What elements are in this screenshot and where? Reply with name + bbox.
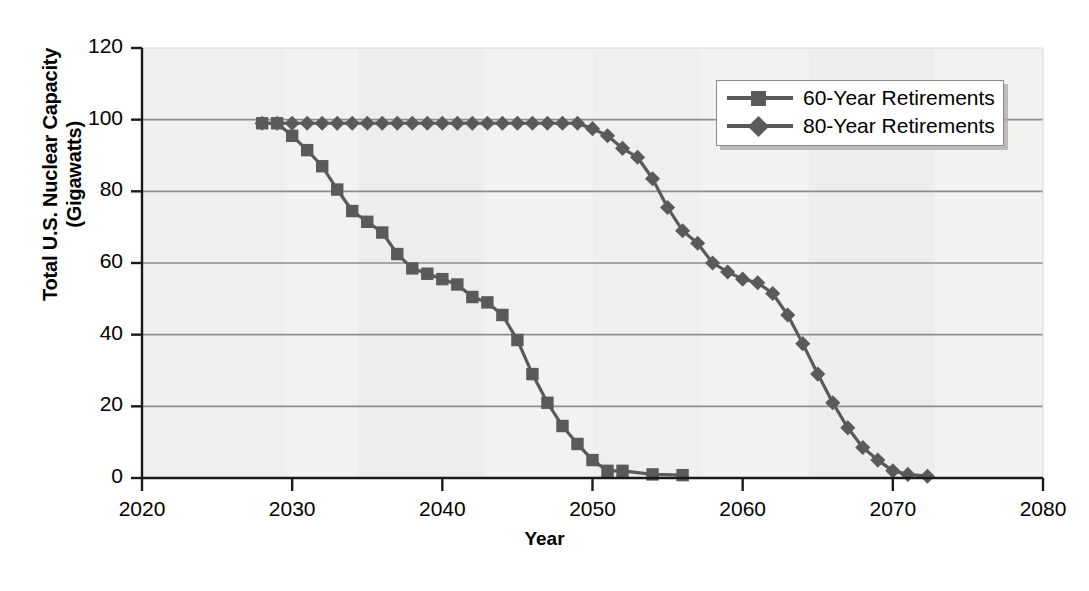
- data-point-marker: [481, 296, 493, 308]
- y-tick-label: 100: [63, 106, 123, 130]
- y-tick-label: 60: [63, 249, 123, 273]
- legend-item-80-year[interactable]: 80-Year Retirements: [727, 113, 995, 139]
- y-tick-label: 40: [63, 321, 123, 345]
- data-point-marker: [436, 273, 448, 285]
- data-point-marker: [571, 438, 583, 450]
- x-tick-label: 2040: [397, 497, 487, 521]
- data-point-marker: [496, 309, 508, 321]
- data-point-marker: [586, 454, 598, 466]
- y-tick-label: 0: [63, 464, 123, 488]
- data-point-marker: [316, 160, 328, 172]
- data-point-marker: [301, 144, 313, 156]
- data-point-marker: [346, 205, 358, 217]
- legend-item-60-year[interactable]: 60-Year Retirements: [727, 85, 995, 111]
- data-point-marker: [601, 465, 613, 477]
- data-point-marker: [541, 397, 553, 409]
- x-axis-title: Year: [0, 528, 1089, 550]
- data-point-marker: [556, 420, 568, 432]
- legend-label-80-year: 80-Year Retirements: [803, 114, 995, 138]
- diamond-marker-icon: [727, 115, 793, 137]
- data-point-marker: [331, 183, 343, 195]
- x-tick-label: 2080: [998, 497, 1088, 521]
- legend-label-60-year: 60-Year Retirements: [803, 86, 995, 110]
- data-point-marker: [451, 278, 463, 290]
- data-point-marker: [391, 248, 403, 260]
- y-tick-label: 20: [63, 392, 123, 416]
- data-point-marker: [361, 216, 373, 228]
- x-tick-label: 2060: [698, 497, 788, 521]
- data-point-marker: [526, 368, 538, 380]
- data-point-marker: [421, 268, 433, 280]
- square-marker-icon: [727, 87, 793, 109]
- x-tick-label: 2050: [548, 497, 638, 521]
- data-point-marker: [676, 469, 688, 481]
- y-axis-title-line1: Total U.S. Nuclear Capacity: [38, 0, 62, 354]
- x-tick-label: 2030: [247, 497, 337, 521]
- chart-legend: 60-Year Retirements 80-Year Retirements: [716, 80, 1004, 146]
- y-tick-label: 80: [63, 177, 123, 201]
- data-point-marker: [616, 465, 628, 477]
- data-point-marker: [376, 226, 388, 238]
- chart-figure: Total U.S. Nuclear Capacity (Gigawatts) …: [0, 0, 1089, 591]
- x-tick-label: 2070: [848, 497, 938, 521]
- data-point-marker: [286, 130, 298, 142]
- x-tick-label: 2020: [97, 497, 187, 521]
- data-point-marker: [406, 262, 418, 274]
- data-point-marker: [466, 291, 478, 303]
- data-point-marker: [511, 334, 523, 346]
- y-tick-label: 120: [63, 34, 123, 58]
